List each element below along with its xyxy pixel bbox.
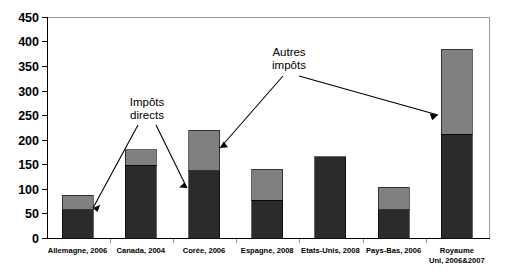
bar-segment-direct-etats-unis[interactable]: [315, 157, 346, 239]
y-tick-label-400: 400: [18, 35, 39, 49]
y-tick-label-150: 150: [18, 158, 39, 172]
x-tick-label-royaume-uni-line1: Royaume: [440, 246, 474, 255]
y-tick-marks: [42, 17, 47, 238]
bar-segment-other-canada[interactable]: [125, 150, 156, 166]
bar-segment-direct-royaume-uni[interactable]: [441, 134, 472, 238]
x-tick-label-allemagne: Allemagne, 2006: [48, 246, 108, 255]
annotation-impots-directs-line2: directs: [130, 109, 164, 121]
y-tick-label-200: 200: [18, 134, 39, 148]
x-tick-label-coree: Corée, 2006: [183, 246, 226, 255]
bar-chart: 0 50 100 150 200 250 300 350 400 450: [0, 0, 507, 278]
y-tick-label-350: 350: [18, 60, 39, 74]
bar-group-coree[interactable]: [189, 130, 220, 238]
x-tick-label-canada: Canada, 2004: [117, 246, 166, 255]
bar-group-royaume-uni[interactable]: [441, 49, 472, 238]
bar-segment-direct-canada[interactable]: [125, 165, 156, 238]
y-tick-label-50: 50: [25, 207, 39, 221]
annotation-arrow-to-coree-direct: [156, 125, 187, 188]
bar-group-allemagne[interactable]: [62, 195, 93, 238]
annotation-autres-impots: Autres impôts: [220, 46, 438, 148]
bar-segment-other-pays-bas[interactable]: [378, 187, 409, 209]
chart-canvas: 0 50 100 150 200 250 300 350 400 450: [0, 0, 507, 278]
x-tick-marks: [110, 239, 426, 244]
bar-group-pays-bas[interactable]: [378, 187, 409, 238]
y-tick-label-300: 300: [18, 85, 39, 99]
bar-segment-direct-coree[interactable]: [189, 171, 220, 239]
x-tick-label-etats-unis: Etats-Unis, 2008: [301, 246, 360, 255]
y-tick-label-100: 100: [18, 183, 39, 197]
bar-group-etats-unis[interactable]: [315, 157, 346, 239]
bar-segment-other-royaume-uni[interactable]: [441, 49, 472, 134]
annotation-arrow-to-coree-other: [220, 76, 283, 148]
annotation-autres-impots-line2: impôts: [272, 59, 306, 71]
y-tick-label-450: 450: [18, 11, 39, 25]
bar-segment-other-espagne[interactable]: [252, 169, 283, 200]
y-tick-label-250: 250: [18, 109, 39, 123]
x-tick-label-royaume-uni-line2: Uni, 2006&2007: [429, 256, 485, 265]
x-tick-label-pays-bas: Pays-Bas, 2006: [366, 246, 421, 255]
y-tick-label-0: 0: [32, 232, 39, 246]
bar-segment-other-allemagne[interactable]: [62, 195, 93, 209]
x-tick-label-espagne: Espagne, 2008: [241, 246, 294, 255]
bar-segment-direct-pays-bas[interactable]: [378, 210, 409, 239]
bar-segment-direct-espagne[interactable]: [252, 200, 283, 238]
bar-segment-other-coree[interactable]: [189, 130, 220, 170]
annotation-autres-impots-line1: Autres: [272, 46, 305, 58]
annotation-impots-directs-line1: Impôts: [130, 96, 165, 108]
bar-group-canada[interactable]: [125, 150, 156, 239]
bar-group-espagne[interactable]: [252, 169, 283, 238]
bar-segment-direct-allemagne[interactable]: [62, 210, 93, 239]
arrowhead-coree-other: [220, 141, 228, 148]
annotation-arrow-to-royaume-uni: [299, 76, 438, 115]
